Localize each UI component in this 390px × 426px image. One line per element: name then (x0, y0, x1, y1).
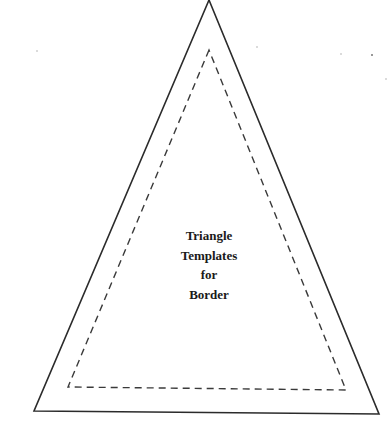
scan-speck (36, 50, 38, 52)
inner-triangle-dashed-outline (68, 50, 346, 390)
title-line-1: Triangle (159, 226, 259, 246)
scan-speck (256, 46, 258, 48)
title-line-2: Templates (159, 246, 259, 266)
scan-speck (385, 78, 387, 80)
template-title: Triangle Templates for Border (159, 226, 259, 304)
outer-triangle-solid-outline (34, 0, 379, 414)
scan-speck (340, 53, 342, 55)
title-line-3: for (159, 265, 259, 285)
triangle-template-drawing (0, 0, 390, 426)
title-line-4: Border (159, 285, 259, 305)
scan-speck (371, 54, 373, 56)
triangle-template-page: Triangle Templates for Border (0, 0, 390, 426)
